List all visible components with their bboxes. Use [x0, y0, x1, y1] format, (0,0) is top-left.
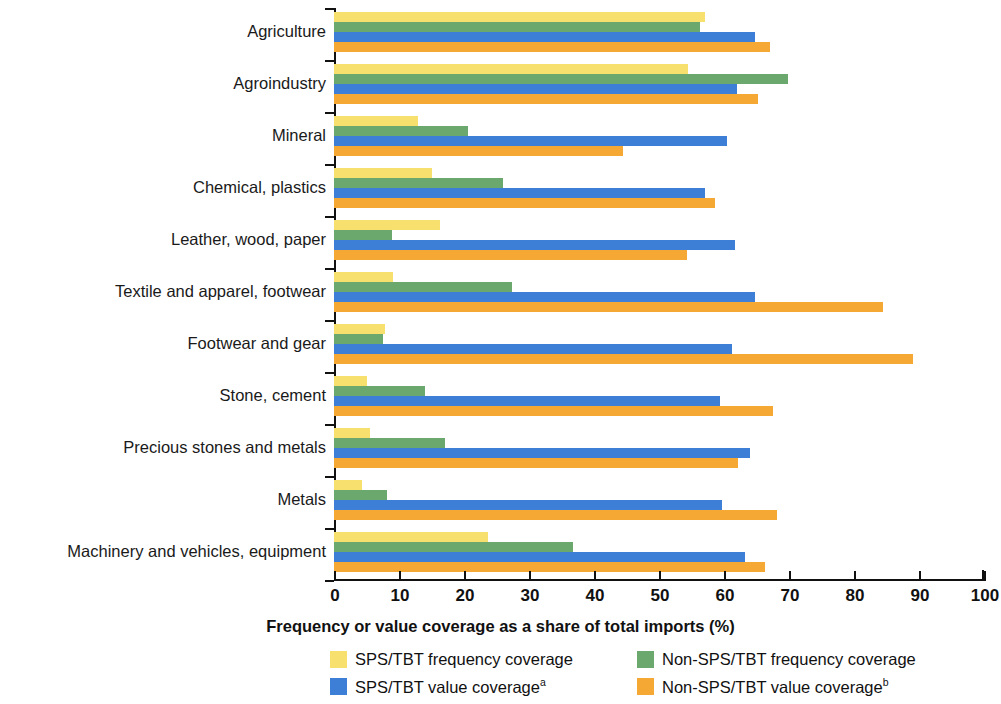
category-tick: [325, 60, 334, 62]
x-axis-title: Frequency or value coverage as a share o…: [0, 617, 1001, 636]
bar: [334, 94, 758, 104]
x-tick: [919, 571, 921, 581]
legend-label: SPS/TBT frequency coverage: [355, 650, 573, 669]
bar: [334, 354, 913, 364]
bar: [334, 188, 705, 198]
bar: [334, 292, 755, 302]
legend-label: SPS/TBT value coveragea: [355, 676, 546, 697]
x-tick: [984, 571, 986, 581]
legend-item-sps-tbt-value-coverage[interactable]: SPS/TBT value coveragea: [330, 676, 546, 697]
category-label: Chemical, plastics: [8, 178, 334, 196]
legend-footnote-marker: a: [540, 676, 546, 688]
bar-group: [334, 476, 984, 528]
legend-label-text: Non-SPS/TBT value coverage: [662, 678, 883, 696]
bar-group: [334, 216, 984, 268]
category-tick: [325, 320, 334, 322]
category-tick: [325, 112, 334, 114]
x-tick-label: 30: [521, 586, 540, 606]
legend-label: Non-SPS/TBT frequency coverage: [662, 650, 916, 669]
category-tick: [325, 164, 334, 166]
bar: [334, 532, 488, 542]
bar: [334, 12, 705, 22]
category-tick: [325, 372, 334, 374]
category-axis-labels: AgricultureAgroindustryMineralChemical, …: [0, 8, 334, 580]
bar: [334, 136, 727, 146]
legend-swatch-icon-yellow: [330, 651, 347, 668]
legend-item-non-sps-tbt-frequency-coverage[interactable]: Non-SPS/TBT frequency coverage: [637, 650, 916, 669]
category-label: Textile and apparel, footwear: [8, 282, 334, 300]
category-label: Mineral: [8, 126, 334, 144]
x-tick: [529, 571, 531, 581]
category-label: Agroindustry: [8, 74, 334, 92]
bar: [334, 510, 777, 520]
bar: [334, 126, 468, 136]
bar: [334, 500, 722, 510]
bar: [334, 22, 700, 32]
bar: [334, 334, 383, 344]
category-tick: [325, 580, 334, 582]
legend-swatch-icon-orange: [637, 678, 654, 695]
bar: [334, 250, 687, 260]
bar: [334, 64, 688, 74]
x-tick: [789, 571, 791, 581]
bar: [334, 438, 445, 448]
category-tick: [325, 528, 334, 530]
x-tick: [464, 571, 466, 581]
bar: [334, 168, 432, 178]
x-tick-label: 60: [716, 586, 735, 606]
bar: [334, 178, 503, 188]
category-label: Leather, wood, paper: [8, 230, 334, 248]
legend-footnote-marker: b: [883, 676, 889, 688]
legend-swatch-icon-green: [637, 651, 654, 668]
bar: [334, 490, 387, 500]
bar-group: [334, 268, 984, 320]
bar: [334, 302, 883, 312]
category-tick: [325, 424, 334, 426]
bar: [334, 376, 367, 386]
category-label: Precious stones and metals: [8, 438, 334, 456]
bar: [334, 386, 425, 396]
bar-group: [334, 112, 984, 164]
bar: [334, 282, 512, 292]
legend-label: Non-SPS/TBT value coverageb: [662, 676, 889, 697]
x-tick-label: 80: [846, 586, 865, 606]
bar: [334, 272, 393, 282]
bar: [334, 146, 623, 156]
bar: [334, 198, 715, 208]
bar: [334, 220, 440, 230]
x-tick-label: 50: [651, 586, 670, 606]
x-tick-label: 0: [330, 586, 339, 606]
x-tick: [399, 571, 401, 581]
bar: [334, 240, 735, 250]
legend-label-text: SPS/TBT value coverage: [355, 678, 540, 696]
x-tick: [659, 571, 661, 581]
bar: [334, 42, 770, 52]
bar: [334, 406, 773, 416]
legend-row-2: SPS/TBT value coveragea Non-SPS/TBT valu…: [330, 676, 1001, 702]
plot-area: [334, 8, 984, 580]
chart-legend: SPS/TBT frequency coverage Non-SPS/TBT f…: [330, 650, 1001, 702]
bar: [334, 542, 573, 552]
legend-item-non-sps-tbt-value-coverage[interactable]: Non-SPS/TBT value coverageb: [637, 676, 889, 697]
category-label: Metals: [8, 490, 334, 508]
x-tick-label: 90: [911, 586, 930, 606]
x-tick-label: 70: [781, 586, 800, 606]
horizontal-bar-chart: AgricultureAgroindustryMineralChemical, …: [0, 0, 1001, 704]
bar: [334, 324, 385, 334]
x-tick: [724, 571, 726, 581]
bar: [334, 230, 392, 240]
category-tick: [325, 8, 334, 10]
category-label: Stone, cement: [8, 386, 334, 404]
x-tick: [334, 571, 336, 581]
category-tick: [325, 268, 334, 270]
category-tick: [325, 216, 334, 218]
bar: [334, 116, 418, 126]
category-label: Footwear and gear: [8, 334, 334, 352]
x-tick: [854, 571, 856, 581]
x-tick-label: 100: [971, 586, 999, 606]
bar: [334, 84, 737, 94]
bar: [334, 32, 755, 42]
legend-item-sps-tbt-frequency-coverage[interactable]: SPS/TBT frequency coverage: [330, 650, 573, 669]
category-tick: [325, 476, 334, 478]
bar: [334, 458, 738, 468]
